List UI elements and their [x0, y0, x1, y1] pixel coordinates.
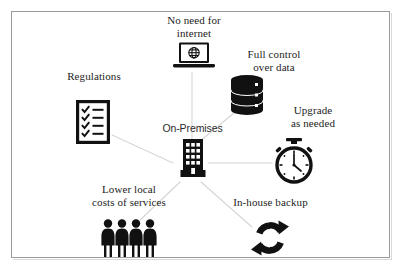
node-label-upgrade-as-needed: Upgrade as needed: [291, 104, 335, 129]
node-label-full-control-over-data: Full control over data: [224, 48, 324, 73]
node-label-regulations: Regulations: [67, 70, 121, 83]
node-upgrade-as-needed[interactable]: Upgrade as needed: [275, 104, 351, 129]
node-regulations[interactable]: Regulations: [52, 70, 136, 83]
node-label-in-house-backup: In-house backup: [233, 196, 308, 209]
office-building-icon: [178, 137, 208, 181]
node-in-house-backup[interactable]: In-house backup: [218, 196, 323, 209]
node-label-on-premises: On-Premises: [162, 122, 222, 135]
node-on-premises[interactable]: On-Premises: [150, 122, 235, 181]
database-stack-icon: [229, 74, 265, 118]
sync-arrows-icon: [248, 218, 292, 258]
laptop-globe-icon: [171, 41, 217, 71]
node-label-lower-local-costs-of-services: Lower local costs of services: [92, 183, 166, 208]
stopwatch-icon: [271, 138, 317, 186]
node-label-no-need-for-internet: No need for internet: [167, 14, 221, 39]
node-full-control-over-data[interactable]: Full control over data: [224, 48, 324, 73]
node-lower-local-costs-of-services[interactable]: Lower local costs of services: [66, 183, 192, 208]
checklist-clipboard-icon: [74, 98, 114, 146]
diagram-canvas: On-Premises: [0, 0, 401, 270]
people-group-icon: [100, 218, 158, 258]
